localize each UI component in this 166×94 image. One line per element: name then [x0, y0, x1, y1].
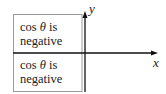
quadrant-ii-line1: cos θ is: [20, 20, 62, 34]
quadrant-iii-label: cos θ is negative: [20, 58, 62, 86]
quadrant-iii-line1: cos θ is: [20, 58, 62, 72]
is-text: is: [46, 58, 57, 72]
cos-text: cos: [20, 20, 40, 34]
cosine-sign-diagram: y x cos θ is negative cos θ is negative: [0, 0, 166, 94]
quadrant-ii-label: cos θ is negative: [20, 20, 62, 48]
quadrant-ii-line2: negative: [20, 34, 62, 48]
quadrant-iii-line2: negative: [20, 72, 62, 86]
cos-text: cos: [20, 58, 40, 72]
y-axis-arrow-icon: [83, 11, 88, 18]
x-axis-label: x: [153, 56, 159, 69]
is-text: is: [46, 20, 57, 34]
y-axis-label: y: [89, 2, 95, 15]
